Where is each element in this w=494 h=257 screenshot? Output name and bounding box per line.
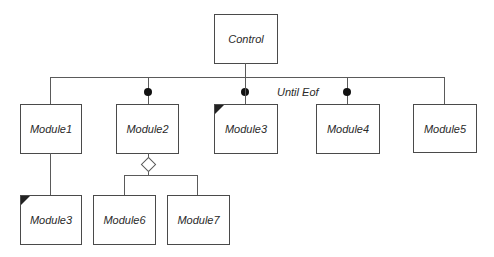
main-bus-line	[50, 77, 445, 78]
module1-label: Module1	[30, 123, 72, 135]
module5-box: Module5	[413, 104, 477, 153]
library-corner-icon	[21, 196, 30, 205]
library-corner-icon	[215, 105, 224, 114]
control-box: Control	[214, 14, 278, 64]
control-connector	[245, 63, 246, 77]
iteration-label: Until Eof	[277, 86, 319, 98]
data-couple-dot-icon	[144, 88, 152, 96]
module1-connector	[50, 77, 51, 104]
module2-branch-line	[124, 175, 198, 176]
module5-label: Module5	[424, 123, 466, 135]
module4-box: Module4	[316, 104, 380, 154]
module4-label: Module4	[327, 123, 369, 135]
data-couple-dot-icon	[343, 88, 351, 96]
module3-lower-box: Module3	[20, 195, 82, 245]
module1-box: Module1	[20, 104, 82, 154]
module7-label: Module7	[177, 214, 219, 226]
structure-chart: Control Module1 Module2 Module3 Until Eo…	[0, 0, 494, 257]
module2-box: Module2	[116, 104, 179, 154]
module3-label: Module3	[225, 123, 267, 135]
module6-label: Module6	[103, 214, 145, 226]
module5-connector	[444, 77, 445, 104]
module7-box: Module7	[167, 195, 230, 245]
control-label: Control	[228, 33, 263, 45]
module3-box: Module3	[214, 104, 278, 154]
selection-diamond-icon	[141, 157, 157, 173]
module2-label: Module2	[126, 123, 168, 135]
module3-connector	[245, 77, 246, 104]
module3-lower-label: Module3	[30, 214, 72, 226]
module6-box: Module6	[93, 195, 156, 245]
module6-connector	[124, 175, 125, 195]
module7-connector	[197, 175, 198, 195]
module1-child-connector	[50, 153, 51, 195]
